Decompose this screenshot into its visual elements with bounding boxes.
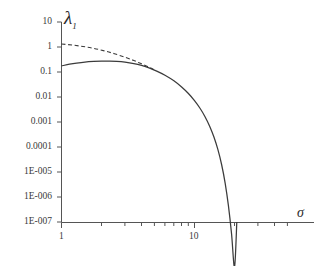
y-major-ticks	[57, 22, 62, 222]
y-tick-label-0.0001: 0.0001	[6, 142, 52, 152]
y-tick-label-1: 1	[6, 42, 52, 52]
y-tick-label-0.01: 0.01	[6, 92, 52, 102]
y-tick-label-0.001: 0.001	[6, 117, 52, 127]
y-tick-label-0.1: 0.1	[6, 67, 52, 77]
series-dashed-curve	[62, 44, 155, 70]
x-tick-label-1: 1	[59, 232, 64, 242]
y-tick-label-1e-005: 1E-005	[6, 167, 52, 177]
x-axis-title: σ	[297, 206, 304, 220]
y-axis-title: λ1	[64, 8, 77, 31]
y-axis-title-subscript: 1	[72, 21, 77, 31]
y-axis-title-symbol: λ	[64, 7, 72, 28]
y-tick-label-1e-007: 1E-007	[6, 217, 52, 227]
x-tick-label-10: 10	[189, 232, 199, 242]
y-tick-label-1e-006: 1E-006	[6, 192, 52, 202]
series-solid-curve	[62, 61, 237, 266]
chart-figure: 10 1 0.1 0.01 0.001 0.0001 1E-005 1E-006…	[0, 0, 323, 266]
x-major-ticks	[62, 223, 195, 229]
y-tick-label-10: 10	[6, 17, 52, 27]
